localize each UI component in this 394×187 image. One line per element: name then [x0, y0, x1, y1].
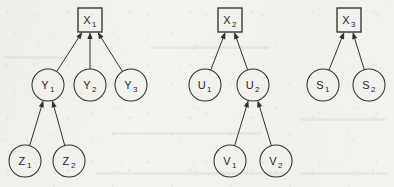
node-label-v1: V: [223, 155, 231, 167]
edge-z2-to-y1: [54, 106, 65, 146]
node-subscript-u2: 2: [255, 85, 260, 94]
node-label-x2: X: [223, 14, 231, 26]
node-subscript-z2: 2: [71, 161, 76, 170]
edge-u2-to-x2: [236, 37, 248, 70]
node-y3[interactable]: Y3: [115, 69, 147, 101]
node-subscript-y3: 3: [133, 85, 138, 94]
edge-arrowhead: [257, 100, 262, 107]
node-u2[interactable]: U2: [237, 69, 269, 101]
node-label-y2: Y: [83, 79, 91, 91]
edge-arrowhead: [234, 32, 239, 39]
node-label-x1: X: [83, 14, 91, 26]
node-s1[interactable]: S1: [307, 69, 339, 101]
edge-arrowhead: [220, 32, 225, 39]
node-label-z2: Z: [62, 155, 69, 167]
node-subscript-u1: 1: [207, 85, 212, 94]
edge-z1-to-y1: [30, 106, 42, 146]
edge-v1-to-u2: [235, 106, 247, 146]
edge-arrowhead: [87, 32, 92, 39]
edge-y3-to-x1: [101, 37, 123, 72]
node-label-x3: X: [342, 14, 350, 26]
node-subscript-x2: 2: [232, 20, 237, 29]
node-label-s2: S: [362, 79, 369, 91]
edge-s2-to-x3: [354, 37, 364, 69]
node-subscript-s2: 2: [371, 85, 376, 94]
node-subscript-y2: 2: [92, 85, 97, 94]
node-label-y1: Y: [41, 79, 49, 91]
edge-arrowhead: [52, 100, 57, 107]
node-v1[interactable]: V1: [214, 145, 246, 177]
node-label-v2: V: [269, 155, 277, 167]
node-label-y3: Y: [124, 79, 132, 91]
diagram-canvas: X1Y1Y2Y3Z1Z2X2U1U2V1V2X3S1S2: [0, 0, 394, 187]
node-label-u2: U: [246, 79, 254, 91]
nodes-group: X1Y1Y2Y3Z1Z2X2U1U2V1V2X3S1S2: [9, 8, 385, 177]
edge-arrowhead: [98, 32, 104, 39]
node-y2[interactable]: Y2: [74, 69, 106, 101]
node-s2[interactable]: S2: [353, 69, 385, 101]
path-diagram-figure: X1Y1Y2Y3Z1Z2X2U1U2V1V2X3S1S2: [0, 0, 394, 187]
node-label-u1: U: [198, 79, 206, 91]
node-z1[interactable]: Z1: [9, 145, 41, 177]
node-subscript-z1: 1: [27, 161, 32, 170]
node-x3[interactable]: X3: [337, 8, 361, 32]
node-x2[interactable]: X2: [218, 8, 242, 32]
edge-arrowhead: [352, 32, 357, 39]
node-subscript-v2: 2: [278, 161, 283, 170]
node-x1[interactable]: X1: [78, 8, 102, 32]
node-label-s1: S: [316, 79, 323, 91]
node-u1[interactable]: U1: [189, 69, 221, 101]
edge-arrowhead: [39, 100, 44, 107]
node-subscript-s1: 1: [325, 85, 330, 94]
edge-arrowhead: [244, 100, 249, 107]
edge-v2-to-u2: [259, 106, 271, 146]
edge-arrowhead: [339, 32, 344, 39]
node-y1[interactable]: Y1: [32, 69, 64, 101]
node-subscript-y1: 1: [50, 85, 55, 94]
node-v2[interactable]: V2: [260, 145, 292, 177]
node-subscript-v1: 1: [232, 161, 237, 170]
edge-u1-to-x2: [211, 37, 224, 70]
edge-s1-to-x3: [329, 37, 342, 70]
node-label-z1: Z: [18, 155, 25, 167]
edge-arrowhead: [76, 32, 82, 39]
node-subscript-x1: 1: [92, 20, 97, 29]
node-subscript-x3: 3: [351, 20, 356, 29]
node-z2[interactable]: Z2: [53, 145, 85, 177]
edge-y1-to-x1: [57, 37, 80, 72]
